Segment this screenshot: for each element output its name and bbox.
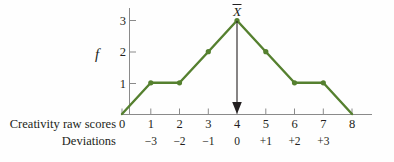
x-tick-label-5: 5 [263,118,269,131]
x-tick-label-7: 7 [320,118,326,131]
row-label-deviations: Deviations [62,135,116,148]
x-tick-label-2: 2 [176,118,182,131]
deviation-label-plus3: +3 [317,136,329,148]
mean-symbol: X [233,5,241,19]
data-point [292,80,297,85]
deviation-label-zero: 0 [234,136,240,148]
mean-symbol-overbar [233,4,242,5]
deviation-label-plus2: +2 [288,136,300,148]
data-point [263,49,268,54]
x-tick-label-1: 1 [148,118,154,131]
data-point [321,80,326,85]
deviation-label-minus2: −2 [173,136,185,148]
y-axis-label: f [95,47,99,62]
y-tick-label-3: 3 [120,15,126,28]
row-label-scores: Creativity raw scores [10,118,116,131]
data-point [206,49,211,54]
x-tick-label-3: 3 [205,118,211,131]
mean-arrow [232,21,242,114]
data-point [177,80,182,85]
deviation-label-minus3: −3 [145,136,157,148]
x-tick-label-6: 6 [291,118,297,131]
y-tick-label-2: 2 [120,46,126,59]
y-tick-marks [130,21,137,84]
x-tick-label-0: 0 [119,118,125,131]
x-tick-label-8: 8 [349,118,355,131]
deviation-label-plus1: +1 [260,136,272,148]
x-tick-label-4: 4 [234,118,240,131]
deviation-label-minus1: −1 [202,136,214,148]
y-tick-label-1: 1 [120,78,126,91]
data-point [148,80,153,85]
mean-arrow-head [232,102,242,114]
chart-canvas [0,0,394,162]
frequency-polygon-figure: f 1 2 3 X Creativity raw scores Deviatio… [0,0,394,162]
